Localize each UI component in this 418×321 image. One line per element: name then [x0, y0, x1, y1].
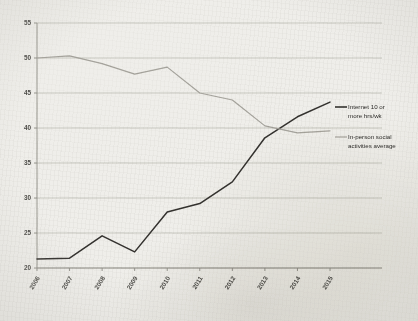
x-tick-label: 2006 — [28, 274, 42, 290]
gridlines-group — [37, 23, 382, 268]
y-tick-label: 20 — [24, 264, 32, 271]
series-line-1 — [37, 56, 330, 133]
y-tick-label: 35 — [24, 159, 32, 166]
chart-legend: Internet 10 ormore hrs/wkIn-person socia… — [335, 103, 396, 148]
y-tick-label: 45 — [24, 89, 32, 96]
x-tick-label: 2015 — [321, 274, 335, 290]
axis-lines-group — [37, 23, 382, 268]
data-series-group — [37, 56, 330, 259]
x-tick-label: 2011 — [191, 274, 205, 290]
y-tick-label: 55 — [24, 19, 32, 26]
y-tick-label: 25 — [24, 229, 32, 236]
chart-canvas: 2025303540455055 20062007200820092010201… — [0, 0, 418, 321]
x-axis-tick-labels: 2006200720082009201020112012201320142015 — [28, 268, 335, 291]
line-chart: 2025303540455055 20062007200820092010201… — [0, 0, 418, 321]
y-axis-tick-labels: 2025303540455055 — [24, 19, 37, 271]
legend-label-line2: more hrs/wk — [348, 112, 383, 119]
x-tick-label: 2012 — [223, 274, 237, 290]
x-tick-label: 2007 — [60, 274, 74, 290]
legend-label-line2: activities average — [348, 142, 396, 149]
legend-label-line1: Internet 10 or — [348, 103, 385, 110]
x-tick-label: 2013 — [255, 274, 269, 290]
x-tick-label: 2008 — [93, 274, 107, 290]
series-line-0 — [37, 102, 330, 259]
y-tick-label: 30 — [24, 194, 32, 201]
y-tick-label: 50 — [24, 54, 32, 61]
x-tick-label: 2010 — [158, 274, 172, 290]
x-tick-label: 2014 — [288, 274, 302, 290]
x-tick-label: 2009 — [125, 274, 139, 290]
legend-label-line1: In-person social — [348, 133, 392, 140]
y-tick-label: 40 — [24, 124, 32, 131]
